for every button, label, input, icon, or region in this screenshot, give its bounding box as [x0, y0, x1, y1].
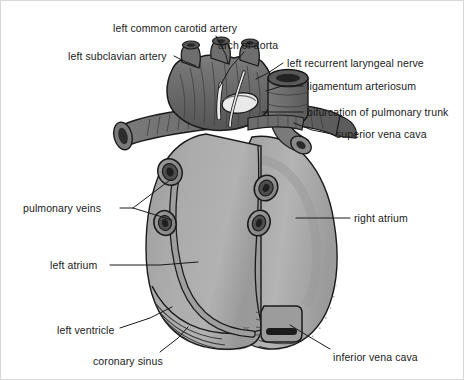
left-atrium-body: [136, 134, 261, 349]
label-bifurcation-of-pulmonary-trunk: bifurcation of pulmonary trunk: [307, 106, 448, 118]
label-left-recurrent-laryngeal-nerve: left recurrent laryngeal nerve: [287, 57, 424, 69]
heart-anatomy-figure: mc left common carotid arteryarch of aor…: [0, 0, 464, 380]
label-arch-of-aorta: arch of aorta: [218, 39, 278, 51]
label-inferior-vena-cava: inferior vena cava: [333, 351, 418, 363]
label-right-atrium: right atrium: [354, 212, 408, 224]
label-left-atrium: left atrium: [50, 259, 97, 271]
artist-mark: mc: [243, 326, 250, 331]
label-ligamentum-arteriosum: ligamentum arteriosum: [307, 80, 416, 92]
label-left-ventricle: left ventricle: [57, 324, 115, 336]
label-left-subclavian-artery: left subclavian artery: [68, 50, 167, 62]
label-superior-vena-cava: superior vena cava: [336, 128, 427, 140]
label-coronary-sinus: coronary sinus: [93, 355, 163, 367]
inferior-vena-cava-stump: [256, 306, 302, 342]
label-left-common-carotid-artery: left common carotid artery: [113, 22, 237, 34]
ligamentum-arteriosum-band: [219, 84, 221, 118]
label-pulmonary-veins: pulmonary veins: [23, 202, 101, 214]
